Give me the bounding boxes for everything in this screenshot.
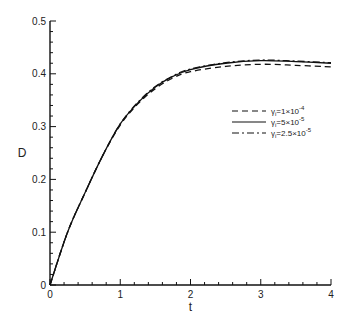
y-tick-label: 0.2	[32, 174, 46, 185]
y-axis-title: D	[18, 146, 27, 160]
series-line-dashed	[50, 64, 331, 285]
y-tick-label: 0.4	[32, 68, 46, 79]
y-tick-label: 0.1	[32, 227, 46, 238]
series-line-dashdot	[50, 60, 331, 285]
chart: 0123400.10.20.30.40.5tDγi=1×10-4γi=5×10-…	[0, 0, 353, 325]
x-tick-label: 2	[188, 289, 194, 300]
x-tick-label: 4	[328, 289, 334, 300]
x-tick-label: 1	[117, 289, 123, 300]
legend-label: γi=2.5×10-5	[271, 127, 312, 139]
legend-label: γi=5×10-5	[271, 116, 305, 128]
x-tick-label: 3	[258, 289, 264, 300]
x-axis-title: t	[189, 300, 193, 314]
y-tick-label: 0	[40, 280, 46, 291]
y-tick-label: 0.3	[32, 121, 46, 132]
y-tick-label: 0.5	[32, 16, 46, 27]
series-line-solid	[50, 61, 331, 285]
x-tick-label: 0	[47, 289, 53, 300]
